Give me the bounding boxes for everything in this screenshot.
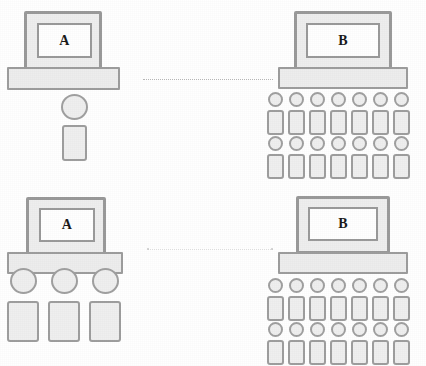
person-figure	[350, 322, 370, 366]
person-figure	[266, 136, 286, 180]
person-figure	[392, 92, 412, 136]
person-figure	[287, 92, 307, 136]
person-head-icon	[268, 92, 283, 107]
person-body-icon	[330, 154, 347, 179]
scene-top-right: B	[262, 0, 426, 183]
monitor-base	[7, 67, 120, 90]
person-head-icon	[331, 278, 346, 293]
scene-top-left: A	[0, 0, 150, 183]
person-body-icon	[309, 110, 326, 135]
person-body-icon	[267, 296, 284, 321]
person-figure	[55, 94, 91, 162]
person-head-icon	[352, 136, 367, 151]
person-body-icon	[288, 110, 305, 135]
person-figure	[7, 268, 43, 346]
person-figure	[48, 268, 84, 346]
person-body-icon	[309, 154, 326, 179]
person-head-icon	[268, 136, 283, 151]
person-head-icon	[352, 92, 367, 107]
person-head-icon	[373, 278, 388, 293]
person-body-icon	[288, 296, 305, 321]
scene-bottom-left: A	[0, 183, 150, 366]
person-body-icon	[330, 296, 347, 321]
computer-b-bottom: B	[270, 186, 420, 281]
person-body-icon	[393, 110, 410, 135]
person-body-icon	[351, 154, 368, 179]
person-head-icon	[331, 136, 346, 151]
person-head-icon	[394, 136, 409, 151]
person-head-icon	[289, 278, 304, 293]
person-figure	[266, 322, 286, 366]
person-body-icon	[351, 340, 368, 365]
person-figure	[266, 278, 286, 322]
person-figure	[266, 92, 286, 136]
person-body-icon	[372, 110, 389, 135]
link-endpoint-dot-left	[147, 248, 149, 250]
person-body-icon	[288, 340, 305, 365]
person-body-icon	[267, 340, 284, 365]
person-body-icon	[330, 110, 347, 135]
person-head-icon	[289, 92, 304, 107]
monitor-label: B	[338, 34, 348, 48]
monitor-screen: B	[306, 23, 380, 58]
person-body-icon	[351, 110, 368, 135]
person-body-icon	[372, 340, 389, 365]
person-body-icon	[393, 154, 410, 179]
person-figure	[350, 136, 370, 180]
person-head-icon	[373, 136, 388, 151]
monitor-shell: B	[294, 11, 392, 71]
person-head-icon	[373, 322, 388, 337]
person-head-icon	[352, 278, 367, 293]
person-figure	[329, 322, 349, 366]
person-head-icon	[10, 268, 37, 294]
person-head-icon	[61, 94, 88, 120]
computer-a-top: A	[0, 0, 140, 95]
monitor-label: A	[59, 34, 69, 48]
monitor-base	[278, 252, 408, 274]
monitor-screen: A	[39, 208, 95, 242]
person-head-icon	[51, 268, 78, 294]
person-figure	[308, 136, 328, 180]
person-figure	[329, 136, 349, 180]
person-head-icon	[310, 92, 325, 107]
person-head-icon	[92, 268, 119, 294]
monitor-shell: B	[296, 196, 390, 254]
monitor-label: B	[338, 217, 348, 231]
person-body-icon	[393, 340, 410, 365]
person-figure	[350, 278, 370, 322]
person-body-icon	[351, 296, 368, 321]
person-body-icon	[267, 110, 284, 135]
person-figure	[308, 92, 328, 136]
person-head-icon	[331, 322, 346, 337]
person-figure	[371, 136, 391, 180]
person-head-icon	[310, 322, 325, 337]
link-line-top	[143, 79, 273, 80]
person-body-icon	[372, 296, 389, 321]
computer-a-bottom: A	[0, 186, 140, 281]
person-figure	[350, 92, 370, 136]
monitor-shell: A	[24, 11, 102, 71]
monitor-shell: A	[26, 197, 106, 255]
monitor-screen: A	[37, 23, 92, 58]
person-figure	[392, 278, 412, 322]
person-figure	[287, 136, 307, 180]
person-body-icon	[62, 125, 87, 161]
person-body-icon	[330, 340, 347, 365]
person-figure	[308, 278, 328, 322]
person-figure	[287, 322, 307, 366]
person-figure	[392, 322, 412, 366]
person-head-icon	[394, 322, 409, 337]
monitor-label: A	[62, 218, 72, 232]
person-head-icon	[373, 92, 388, 107]
link-endpoint-dot-right	[271, 248, 273, 250]
person-figure	[329, 278, 349, 322]
person-figure	[371, 322, 391, 366]
scene-bottom-right: B	[262, 183, 426, 366]
person-body-icon	[309, 296, 326, 321]
person-head-icon	[310, 278, 325, 293]
person-head-icon	[268, 322, 283, 337]
monitor-base	[278, 67, 408, 89]
computer-b-top: B	[270, 0, 420, 95]
person-head-icon	[331, 92, 346, 107]
person-figure	[392, 136, 412, 180]
